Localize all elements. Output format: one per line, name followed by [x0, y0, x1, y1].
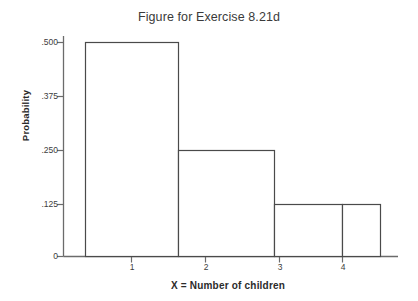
bar-3[interactable]	[275, 205, 343, 257]
bar-4[interactable]	[343, 205, 381, 257]
y-tick-label-group: .500 .375 .250 .125 0	[20, 0, 58, 301]
y-tick-label-125: .125	[24, 199, 58, 209]
bar-1[interactable]	[86, 43, 179, 257]
x-tick-label-1: 1	[112, 262, 152, 272]
y-tick-label-375: .375	[24, 91, 58, 101]
y-tick-label-500: .500	[24, 37, 58, 47]
x-axis-title: X = Number of children	[63, 280, 393, 291]
x-tick-label-4: 4	[323, 262, 363, 272]
x-tick-label-2: 2	[186, 262, 226, 272]
y-tick-label-0: 0	[24, 251, 58, 261]
plot-canvas	[0, 0, 418, 301]
bar-2[interactable]	[179, 151, 275, 257]
y-tick-label-250: .250	[24, 145, 58, 155]
x-tick-label-group: 1 2 3 4	[0, 262, 418, 278]
x-tick-label-3: 3	[260, 262, 300, 272]
bar-series	[86, 43, 381, 257]
figure-container: Figure for Exercise 8.21d Probability	[0, 0, 418, 301]
